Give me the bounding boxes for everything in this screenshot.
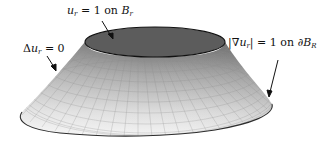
cone-surface-diagram	[0, 0, 328, 143]
label-top-boundary-condition: ur = 1 on Br	[67, 5, 133, 18]
label-left-op: Δ	[23, 42, 31, 55]
label-right-open: |∇	[228, 36, 239, 49]
label-gradient-boundary-condition: |∇ur| = 1 on ∂BR	[228, 37, 317, 50]
label-left-rest: = 0	[41, 42, 64, 55]
label-laplace-equation: Δur = 0	[23, 43, 65, 56]
label-top-set-sub: r	[129, 10, 132, 18]
arrow-left-label	[47, 56, 56, 71]
label-left-var: u	[31, 42, 38, 55]
label-top-rest: = 1 on	[77, 4, 121, 17]
top-disk	[85, 27, 225, 57]
label-right-close: | = 1 on ∂	[250, 36, 303, 49]
arrow-right-label	[267, 60, 278, 97]
label-right-set-sub: R	[311, 42, 316, 50]
